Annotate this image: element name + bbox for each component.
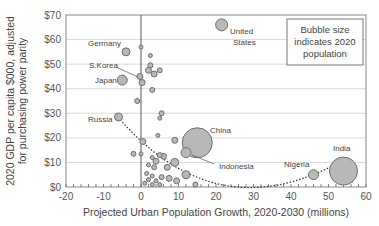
y-tick-label: $10 <box>44 157 61 168</box>
bubble <box>193 182 198 187</box>
bubble-s-korea <box>137 73 143 79</box>
y-axis-title: 2020 GDP per capita $000, adjusted for p… <box>4 16 28 186</box>
y-axis-title-line-1: 2020 GDP per capita $000, adjusted <box>4 16 16 186</box>
y-tick-label: $40 <box>44 83 61 94</box>
bubble <box>158 183 162 187</box>
y-tick-label: $30 <box>44 108 61 119</box>
bubble <box>182 171 190 179</box>
bubble <box>157 153 162 158</box>
bubble-chart: $0$10$20$30$40$50$60$70 -20-100102030405… <box>0 0 379 226</box>
label-nigeria: Nigeria <box>284 160 310 169</box>
bubble <box>172 137 178 143</box>
bubble-japan <box>117 75 127 85</box>
y-axis-tick-labels: $0$10$20$30$40$50$60$70 <box>44 10 61 193</box>
x-tick-label: 40 <box>285 191 297 202</box>
bubble-russia <box>115 113 123 121</box>
bubble <box>164 164 170 170</box>
label-united: United <box>230 27 253 36</box>
x-tick-label: 60 <box>360 191 372 202</box>
bubble-nigeria <box>309 170 319 180</box>
x-tick-label: 50 <box>323 191 335 202</box>
label-indonesia: Indonesia <box>219 162 254 171</box>
x-tick-label: 0 <box>138 191 144 202</box>
bubble <box>158 116 162 120</box>
label-japan: Japan <box>95 76 117 85</box>
bubble <box>150 87 155 92</box>
bubble <box>159 175 164 180</box>
bubble <box>171 158 179 166</box>
label-states: States <box>233 38 256 47</box>
bubble-united-states <box>216 19 228 31</box>
x-tick-label: 20 <box>210 191 222 202</box>
bubble <box>159 111 164 116</box>
x-axis-title: Projected Urban Population Growth, 2020-… <box>83 206 349 218</box>
annotation-line-3: population <box>303 48 347 59</box>
bubble <box>174 178 180 184</box>
bubble <box>135 99 140 104</box>
bubble <box>152 165 157 170</box>
bubble <box>143 181 147 185</box>
y-tick-label: $20 <box>44 132 61 143</box>
bubble-indonesia <box>181 148 191 158</box>
y-tick-label: $70 <box>44 10 61 21</box>
bubble <box>151 71 157 77</box>
label-russia: Russia <box>88 115 113 124</box>
bubble <box>139 45 143 49</box>
y-axis-title-line-2: for purchasing power parity <box>16 37 28 164</box>
bubble <box>150 183 154 187</box>
bubble <box>156 133 160 137</box>
bubble <box>150 174 154 178</box>
bubble <box>148 54 152 58</box>
label-china: China <box>210 126 231 135</box>
x-axis-minor-ticks <box>66 184 366 187</box>
y-tick-label: $50 <box>44 59 61 70</box>
x-tick-label: 30 <box>248 191 260 202</box>
bubble <box>131 151 136 156</box>
bubble <box>147 178 151 182</box>
annotation-box: Bubble size indicates 2020 population <box>287 19 363 65</box>
bubble-india <box>330 157 358 185</box>
label-skorea: S.Korea <box>89 61 118 70</box>
annotation-line-2: indicates 2020 <box>294 36 355 47</box>
bubble <box>166 175 172 181</box>
bubble <box>157 68 162 73</box>
x-tick-label: -10 <box>96 191 111 202</box>
bubble-germany <box>122 48 130 56</box>
bubble <box>154 179 158 183</box>
bubble <box>148 63 153 68</box>
bubble <box>145 171 149 175</box>
y-tick-label: $60 <box>44 34 61 45</box>
bubble <box>139 80 145 86</box>
bubble <box>147 163 151 167</box>
bubble <box>150 156 154 160</box>
bubble <box>139 152 143 156</box>
x-axis-tick-labels: -20-100102030405060 <box>59 191 372 202</box>
label-germany: Germany <box>88 39 121 48</box>
bubble <box>140 139 146 145</box>
x-tick-label: -20 <box>59 191 74 202</box>
label-india: India <box>333 144 351 153</box>
x-tick-label: 10 <box>173 191 185 202</box>
annotation-line-1: Bubble size <box>300 24 349 35</box>
